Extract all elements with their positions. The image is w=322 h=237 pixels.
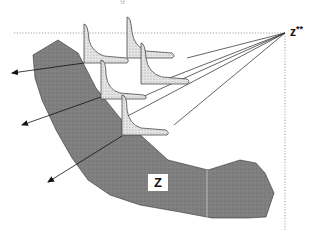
slice-1 [84, 24, 128, 63]
pareto-diagram [0, 0, 322, 237]
slice-4 [141, 43, 189, 84]
ideal-point-superscript: ** [296, 24, 303, 34]
slice-3 [101, 60, 146, 99]
slice-2 [127, 17, 174, 58]
ideal-point-label: z** [290, 24, 303, 39]
region-label: Z [148, 174, 168, 191]
caption-fragment: g [120, 0, 125, 4]
